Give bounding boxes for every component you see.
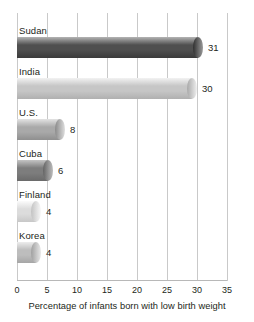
bar-group: Sudan31 (17, 25, 227, 58)
bar-korea (17, 242, 41, 263)
bar-group: Cuba6 (17, 148, 227, 181)
x-axis-title: Percentage of infants born with low birt… (0, 301, 254, 311)
bar-group: U.S.8 (17, 107, 227, 140)
plot-area: Sudan31India30U.S.8Cuba6Finland4Korea4 (17, 13, 227, 281)
bar-end-cap (55, 119, 65, 140)
bar-sudan (17, 37, 203, 58)
bar-cuba (17, 160, 53, 181)
bar-category-label: U.S. (19, 107, 38, 118)
bar-group: Korea4 (17, 230, 227, 263)
bar-value-label: 31 (208, 37, 219, 58)
bar-category-label: Cuba (19, 148, 42, 159)
bar-end-cap (31, 201, 41, 222)
bar-group: India30 (17, 66, 227, 99)
x-tick-10: 10 (67, 285, 87, 295)
x-tick-30: 30 (187, 285, 207, 295)
bar-value-label: 30 (202, 78, 213, 99)
bar-value-label: 8 (70, 119, 75, 140)
bar-india (17, 78, 197, 99)
bar-category-label: Korea (19, 230, 45, 241)
bar-us (17, 119, 65, 140)
bar-value-label: 4 (46, 242, 51, 263)
bar-body (17, 37, 198, 58)
x-tick-0: 0 (7, 285, 27, 295)
bar-end-cap (187, 78, 197, 99)
bar-group: Finland4 (17, 189, 227, 222)
bar-category-label: Finland (19, 189, 51, 200)
x-tick-15: 15 (97, 285, 117, 295)
x-tick-35: 35 (217, 285, 237, 295)
x-tick-25: 25 (157, 285, 177, 295)
bar-end-cap (31, 242, 41, 263)
x-tick-5: 5 (37, 285, 57, 295)
bar-value-label: 6 (58, 160, 63, 181)
gridline-35 (227, 13, 228, 281)
bar-finland (17, 201, 41, 222)
bar-end-cap (193, 37, 203, 58)
bar-chart: Sudan31India30U.S.8Cuba6Finland4Korea4 0… (0, 0, 254, 322)
bar-end-cap (43, 160, 53, 181)
bar-body (17, 78, 192, 99)
bar-category-label: Sudan (19, 25, 47, 36)
bar-body (17, 119, 60, 140)
x-tick-20: 20 (127, 285, 147, 295)
x-axis-line (17, 280, 227, 281)
bar-category-label: India (19, 66, 40, 77)
bar-value-label: 4 (46, 201, 51, 222)
